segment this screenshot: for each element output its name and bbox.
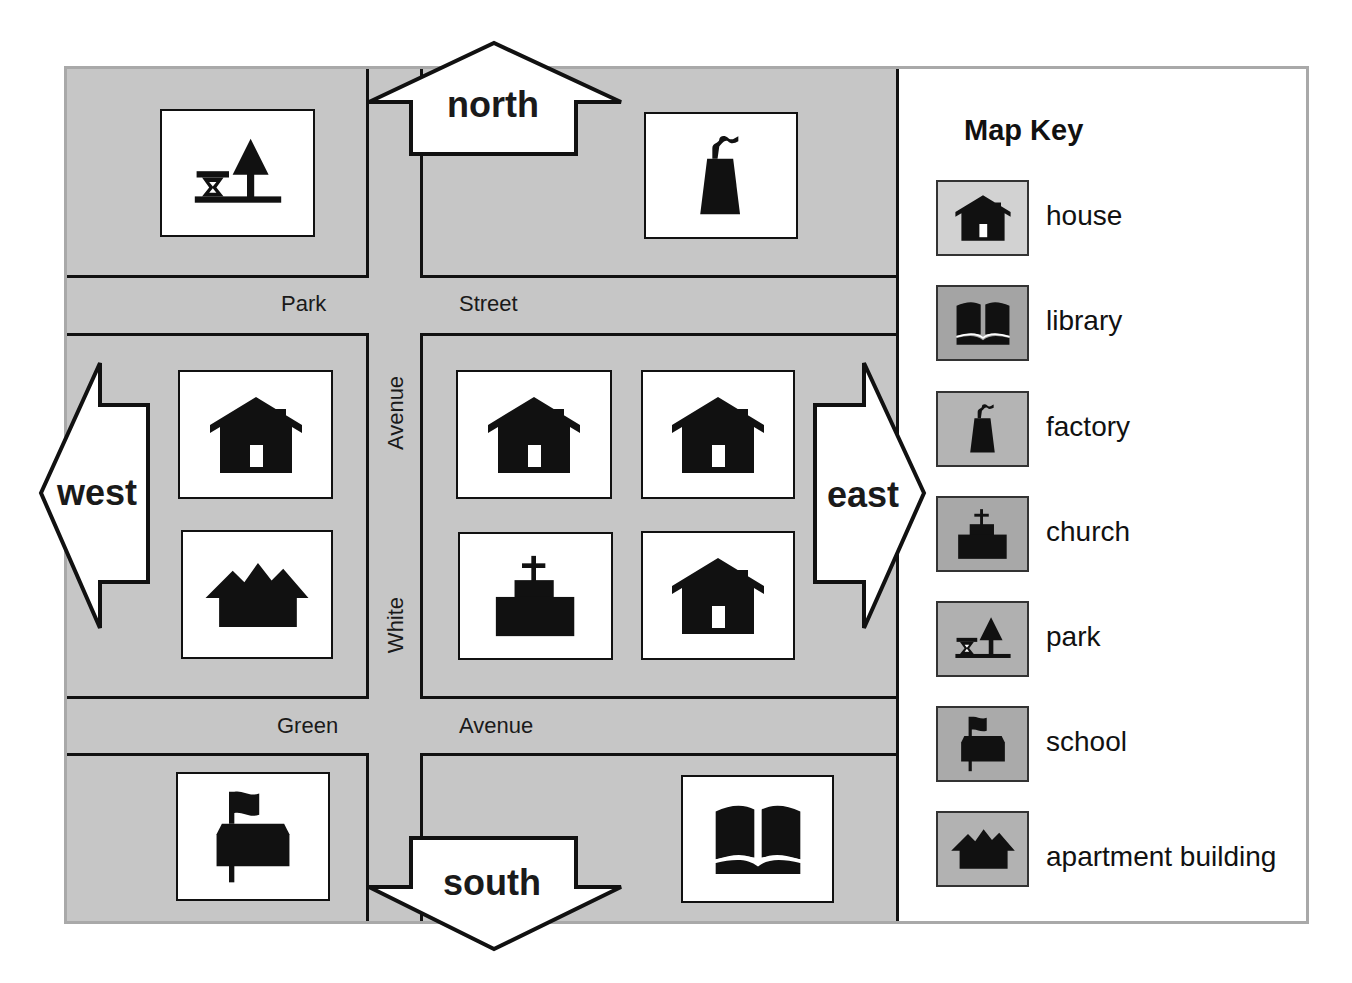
- park-icon: [954, 616, 1012, 662]
- key-item-library: library: [936, 285, 1316, 361]
- map-building-church[interactable]: [458, 532, 613, 660]
- house-icon: [668, 556, 768, 636]
- map-building-factory[interactable]: [644, 112, 798, 239]
- factory-icon: [695, 130, 747, 222]
- south-label: south: [443, 862, 541, 904]
- street-label-green: Green: [277, 713, 338, 739]
- key-item-church: church: [936, 496, 1316, 572]
- house-icon: [952, 194, 1014, 242]
- house-icon: [668, 395, 768, 475]
- key-label: house: [1046, 200, 1122, 232]
- key-label: apartment building: [1046, 841, 1276, 873]
- library-icon: [954, 300, 1012, 346]
- map-building-park[interactable]: [160, 109, 315, 237]
- key-item-school: school: [936, 706, 1316, 782]
- map-building-house[interactable]: [178, 370, 333, 499]
- key-label: park: [1046, 621, 1100, 653]
- map-key-title: Map Key: [964, 114, 1083, 147]
- church-icon: [957, 508, 1009, 560]
- key-swatch: [936, 811, 1029, 887]
- school-icon: [213, 787, 293, 887]
- apartment-icon: [950, 828, 1016, 870]
- key-label: church: [1046, 516, 1130, 548]
- west-label: west: [57, 472, 137, 514]
- house-icon: [484, 395, 584, 475]
- key-swatch: [936, 496, 1029, 572]
- park-icon: [193, 137, 283, 209]
- map-building-apartment[interactable]: [181, 530, 333, 659]
- key-swatch: [936, 706, 1029, 782]
- key-swatch: [936, 601, 1029, 677]
- house-icon: [206, 395, 306, 475]
- key-label: factory: [1046, 411, 1130, 443]
- street-label-street: Street: [459, 291, 518, 317]
- street-label-avenue: Avenue: [459, 713, 533, 739]
- key-item-house: house: [936, 180, 1316, 256]
- north-label: north: [447, 84, 539, 126]
- library-icon: [712, 802, 804, 876]
- key-label: school: [1046, 726, 1127, 758]
- key-label: library: [1046, 305, 1122, 337]
- east-label: east: [827, 474, 899, 516]
- street-label-white: White: [383, 595, 409, 655]
- factory-icon: [967, 400, 999, 458]
- key-swatch: [936, 391, 1029, 467]
- street-label-avenue-vertical: Avenue: [383, 373, 409, 453]
- church-icon: [494, 554, 578, 638]
- map-building-house[interactable]: [641, 370, 795, 499]
- street-label-park: Park: [281, 291, 326, 317]
- key-item-apartment-building: apartment building: [936, 811, 1316, 887]
- map-building-house[interactable]: [456, 370, 612, 499]
- map-building-house[interactable]: [641, 531, 795, 660]
- school-icon: [959, 714, 1007, 774]
- key-swatch: [936, 180, 1029, 256]
- map-building-library[interactable]: [681, 775, 834, 903]
- key-swatch: [936, 285, 1029, 361]
- key-item-park: park: [936, 601, 1316, 677]
- apartment-icon: [203, 561, 311, 629]
- key-item-factory: factory: [936, 391, 1316, 467]
- map-building-school[interactable]: [176, 772, 330, 901]
